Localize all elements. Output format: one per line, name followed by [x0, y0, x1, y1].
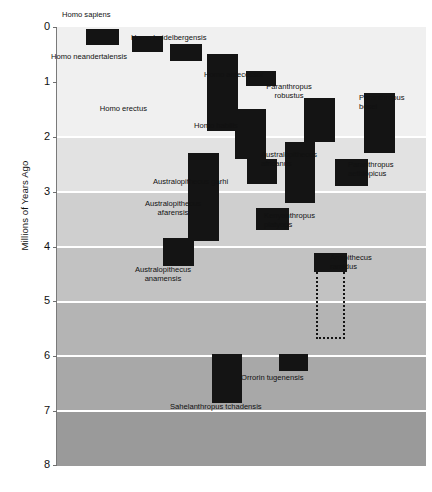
label-ardipithecus-ramidus: Ardipithecus ramidus	[330, 253, 392, 272]
y-tick-2: 2	[28, 131, 50, 142]
label-australopithecus-afarensis: Australopithecus afarensis	[137, 199, 209, 218]
label-homo-antecessor: Homo antecessor	[204, 70, 264, 79]
label-homo-heidelbergensis: Homo heidelbergensis	[131, 33, 207, 42]
label-paranthropus-aethiopicus: Paranthropus aethiopicus	[348, 160, 420, 179]
label-homo-sapiens: Homo sapiens	[62, 10, 111, 19]
band-3-4	[57, 192, 426, 247]
bar-paranthropus-robustus	[304, 98, 335, 142]
y-tick-8: 8	[28, 459, 50, 470]
y-tick-5: 5	[28, 295, 50, 306]
band-7-8	[57, 411, 426, 466]
label-homo-habilis: Homo habilis	[194, 121, 238, 130]
bar-australopithecus-anamensis	[163, 238, 194, 266]
label-sahelanthropus-tchadensis: Sahelanthropus tchadensis	[170, 402, 262, 411]
hominin-timeline-chart: Millions of Years Ago 0 1 2 3 4 5 6 7 8	[0, 0, 432, 492]
label-australopithecus-africanus: Australopithecus africanus	[261, 150, 331, 169]
y-tick-6: 6	[28, 350, 50, 361]
bar-orrorin-tugenensis	[279, 354, 308, 371]
bar-ardipithecus-ramidus-uncertain-extension	[316, 272, 345, 339]
band-separator-4	[57, 246, 426, 248]
label-paranthropus-bosei: Paranthropus bosei	[359, 93, 423, 112]
bar-australopithecus-afarensis	[188, 153, 219, 241]
y-axis-title: Millions of Years Ago	[19, 126, 30, 286]
label-australopithecus-anamensis: Australopithecus anamensis	[126, 265, 200, 284]
band-5-6	[57, 302, 426, 356]
y-tick-4: 4	[28, 241, 50, 252]
bar-homo-erectus	[207, 54, 238, 131]
label-kenyanthropus-platyops: Kenyanthropus platyops	[264, 211, 330, 230]
bar-homo-sapiens	[86, 29, 119, 45]
bar-sahelanthropus-tchadensis	[212, 354, 242, 403]
y-tick-3: 3	[28, 186, 50, 197]
label-orrorin-tugenensis: Orrorin tugenensis	[241, 373, 303, 382]
band-separator-3	[57, 191, 426, 193]
label-homo-erectus: Homo erectus	[92, 104, 147, 113]
y-tick-7: 7	[28, 405, 50, 416]
label-homo-neandertalensis: Homo neandertalensis	[51, 52, 127, 61]
label-australopithecus-garhi: Australopithecus garhi	[153, 177, 228, 186]
band-separator-5	[57, 301, 426, 303]
y-tick-1: 1	[28, 76, 50, 87]
y-tick-0: 0	[28, 21, 50, 32]
bar-homo-heidelbergensis	[170, 44, 202, 61]
label-paranthropus-robustus: Paranthropus robustus	[258, 82, 320, 101]
